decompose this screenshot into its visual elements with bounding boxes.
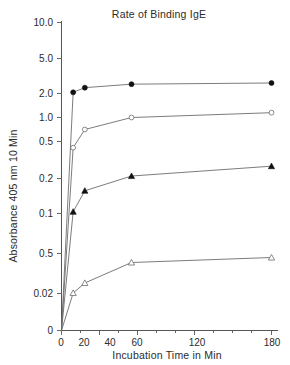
y-tick-label: 0.2: [39, 173, 53, 184]
y-axis-label: Absorbance 405 nm 10 Min: [7, 129, 19, 262]
y-tick-label: 0: [47, 325, 53, 336]
data-point-marker: [70, 209, 76, 215]
y-axis-tick-labels: 10.0 5.0 2.0 1.0 0.5 0.2 0.1 0.5 0.02 0: [34, 17, 54, 336]
series-1: [62, 81, 275, 331]
series-line: [62, 113, 272, 331]
y-tick-label: 5.0: [39, 53, 53, 64]
plot-area: [62, 81, 275, 331]
series-4: [62, 254, 275, 330]
series-line: [62, 83, 272, 331]
y-tick-label: 0.02: [34, 288, 54, 299]
data-point-marker: [129, 82, 134, 87]
y-tick-label: 0.5: [39, 136, 53, 147]
data-point-marker: [269, 110, 274, 115]
data-point-marker: [71, 90, 76, 95]
x-tick-label: 40: [104, 337, 116, 348]
y-tick-label: 0.1: [39, 208, 53, 219]
data-point-marker: [82, 85, 87, 90]
y-axis-ticks: [57, 23, 62, 331]
x-axis-label: Incubation Time in Min: [112, 349, 221, 361]
y-tick-label: 10.0: [34, 17, 54, 28]
series-3: [62, 163, 275, 330]
y-tick-label: 2.0: [39, 88, 53, 99]
data-point-marker: [82, 127, 87, 132]
y-tick-label: 1.0: [39, 112, 53, 123]
data-point-marker: [129, 115, 134, 120]
x-tick-label: 0: [58, 337, 64, 348]
series-line: [62, 258, 272, 331]
chart-figure: Rate of Binding IgE Absorbance 405 nm 10…: [0, 0, 290, 365]
data-point-marker: [82, 280, 88, 286]
chart-title: Rate of Binding IgE: [112, 8, 206, 20]
x-tick-label: 120: [189, 337, 206, 348]
x-axis-tick-labels: 0 20 40 60 120 180: [58, 337, 281, 348]
y-tick-label: 0.5: [39, 248, 53, 259]
x-tick-label: 60: [131, 337, 143, 348]
data-point-marker: [269, 81, 274, 86]
x-tick-label: 20: [78, 337, 90, 348]
series-line: [62, 166, 272, 330]
chart-canvas: Rate of Binding IgE Absorbance 405 nm 10…: [0, 0, 290, 365]
x-axis-ticks: [62, 331, 272, 336]
data-point-marker: [71, 145, 76, 150]
x-tick-label: 180: [264, 337, 281, 348]
series-2: [62, 110, 274, 330]
